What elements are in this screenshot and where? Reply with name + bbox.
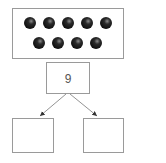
- counter-dot: [33, 37, 45, 49]
- counter-dot: [100, 17, 112, 29]
- counter-dot: [71, 37, 83, 49]
- counter-dot: [24, 17, 36, 29]
- dot-frame: [13, 9, 124, 59]
- counter-dot: [62, 17, 74, 29]
- counter-dot: [90, 37, 102, 49]
- counter-dot: [52, 37, 64, 49]
- part-box-right[interactable]: [84, 119, 124, 153]
- counter-dot: [81, 17, 93, 29]
- arrow-left: [40, 94, 66, 116]
- whole-value: 9: [65, 72, 72, 86]
- arrow-right: [70, 94, 97, 116]
- counter-dot: [43, 17, 55, 29]
- number-bond-diagram: 9: [0, 0, 166, 163]
- part-box-left[interactable]: [13, 119, 54, 153]
